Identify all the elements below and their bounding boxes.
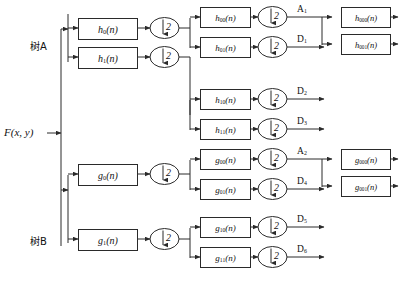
filter-block-g10[interactable]: g10(n) (200, 217, 251, 238)
diagram-canvas: F(x, y) 树A 树B h0(n) h1(n) g0(n) g1(n) h0… (0, 0, 401, 286)
filter-block-h11[interactable]: h11(n) (200, 119, 251, 140)
filter-label-h001: h001(n) (355, 40, 377, 50)
filter-block-h01[interactable]: h01(n) (200, 37, 251, 58)
output-label-d4: D4 (297, 176, 307, 186)
output-label-d6: D6 (297, 244, 307, 254)
output-label-d2: D2 (297, 86, 307, 96)
filter-block-h00[interactable]: h00(n) (200, 7, 251, 28)
input-signal-label: F(x, y) (4, 126, 33, 138)
tree-label-b: 树B (30, 233, 47, 248)
downsample-factor-h01: 2 (274, 41, 279, 51)
filter-label-h01: h01(n) (215, 43, 236, 53)
filter-block-g00[interactable]: g00(n) (200, 149, 251, 170)
filter-label-g10: g10(n) (215, 223, 236, 233)
downsample-factor-h1: 2 (166, 51, 171, 61)
filter-block-g0[interactable]: g0(n) (78, 164, 138, 186)
filter-block-h10[interactable]: h10(n) (200, 89, 251, 110)
downsample-factor-g10: 2 (274, 221, 279, 231)
filter-label-g01: g01(n) (215, 185, 236, 195)
output-label-a1: A1 (297, 4, 307, 14)
filter-block-g1[interactable]: g1(n) (78, 229, 138, 251)
filter-label-h0: h0(n) (98, 24, 118, 35)
downsample-factor-h11: 2 (274, 123, 279, 133)
filter-block-g001[interactable]: g001(n) (341, 176, 391, 197)
tree-label-a: 树A (30, 38, 47, 53)
filter-label-g11: g11(n) (215, 253, 235, 263)
downsample-factor-g01: 2 (274, 183, 279, 193)
filter-label-h10: h10(n) (215, 95, 236, 105)
filter-label-h000: h000(n) (355, 13, 377, 23)
downsample-factor-g11: 2 (274, 251, 279, 261)
filter-block-g11[interactable]: g11(n) (200, 247, 251, 268)
filter-label-g1: g1(n) (98, 235, 118, 246)
output-label-d1: D1 (297, 34, 307, 44)
filter-block-h0[interactable]: h0(n) (78, 18, 138, 40)
filter-label-g0: g0(n) (98, 170, 118, 181)
filter-label-h1: h1(n) (98, 53, 118, 64)
filter-label-g00: g00(n) (215, 155, 236, 165)
downsample-factor-h00: 2 (274, 11, 279, 21)
output-label-d5: D5 (297, 214, 307, 224)
downsample-factor-h10: 2 (274, 93, 279, 103)
downsample-factor-g00: 2 (274, 153, 279, 163)
downsample-factor-h0: 2 (166, 22, 171, 32)
filter-block-g01[interactable]: g01(n) (200, 179, 251, 200)
filter-block-g000[interactable]: g000(n) (341, 149, 391, 170)
output-label-d3: D3 (297, 116, 307, 126)
filter-label-g001: g001(n) (355, 182, 377, 192)
downsample-factor-g1: 2 (166, 233, 171, 243)
filter-block-h001[interactable]: h001(n) (341, 34, 391, 55)
downsample-factor-g0: 2 (166, 168, 171, 178)
output-label-a2: A2 (297, 146, 307, 156)
filter-block-h000[interactable]: h000(n) (341, 7, 391, 28)
filter-label-h00: h00(n) (215, 13, 236, 23)
filter-block-h1[interactable]: h1(n) (78, 47, 138, 69)
filter-label-h11: h11(n) (215, 125, 235, 135)
filter-label-g000: g000(n) (355, 155, 377, 165)
